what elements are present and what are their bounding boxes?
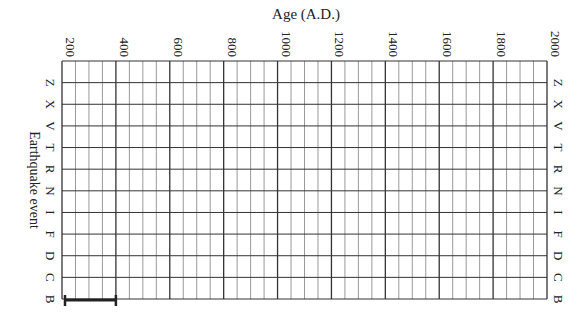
category-label-left: X bbox=[43, 100, 58, 110]
category-label-right: X bbox=[551, 100, 566, 110]
category-label-left: N bbox=[43, 186, 58, 196]
category-label-right: R bbox=[551, 165, 566, 174]
category-label-left: R bbox=[43, 165, 58, 174]
category-label-right: C bbox=[551, 273, 566, 282]
category-label-left: C bbox=[43, 273, 58, 282]
category-label-right: B bbox=[551, 295, 566, 304]
x-tick-label: 1000 bbox=[279, 31, 294, 57]
x-tick-label: 2000 bbox=[548, 31, 563, 57]
category-label-left: V bbox=[43, 121, 58, 131]
category-label-right: F bbox=[551, 230, 566, 237]
earthquake-timeline-grid: 200400600800100012001400160018002000ZZXX… bbox=[0, 0, 588, 320]
x-tick-label: 1400 bbox=[386, 31, 401, 57]
category-label-left: D bbox=[43, 251, 58, 260]
x-tick-label: 800 bbox=[225, 38, 240, 58]
category-label-left: F bbox=[43, 230, 58, 237]
x-tick-label: 600 bbox=[171, 38, 186, 58]
category-label-right: T bbox=[551, 144, 566, 152]
category-label-right: N bbox=[551, 186, 566, 196]
x-tick-label: 1200 bbox=[332, 31, 347, 57]
category-label-left: T bbox=[43, 144, 58, 152]
category-label-left: I bbox=[43, 210, 58, 214]
x-tick-label: 1800 bbox=[494, 31, 509, 57]
category-label-right: D bbox=[551, 251, 566, 260]
x-tick-label: 1600 bbox=[440, 31, 455, 57]
category-label-left: B bbox=[43, 295, 58, 304]
category-label-right: V bbox=[551, 121, 566, 131]
x-tick-label: 400 bbox=[117, 38, 132, 58]
category-label-right: I bbox=[551, 210, 566, 214]
category-label-left: Z bbox=[43, 79, 58, 87]
x-tick-label: 200 bbox=[63, 38, 78, 58]
category-label-right: Z bbox=[551, 79, 566, 87]
